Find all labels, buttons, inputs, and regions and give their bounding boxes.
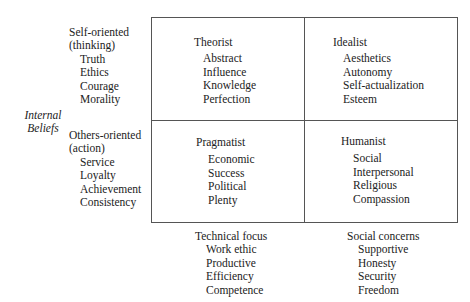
list-item: Productive [206, 257, 267, 270]
quadrant-items: Social Interpersonal Religious Compassio… [341, 152, 414, 206]
quadrant-title: Idealist [333, 36, 424, 49]
column-label-technical-focus: Technical focus Work ethic Productive Ef… [195, 230, 267, 297]
row-items: Service Loyalty Achievement Consistency [69, 156, 141, 210]
axis-label-line2: Beliefs [20, 122, 66, 135]
list-item: Self-actualization [343, 79, 424, 92]
list-item: Religious [353, 179, 414, 192]
list-item: Freedom [358, 284, 420, 297]
list-item: Influence [203, 66, 256, 79]
list-item: Compassion [353, 193, 414, 206]
column-label-social-concerns: Social concerns Supportive Honesty Secur… [347, 230, 420, 297]
quadrant-items: Abstract Influence Knowledge Perfection [194, 52, 256, 106]
list-item: Success [208, 167, 255, 180]
quadrant-title: Theorist [194, 36, 256, 49]
list-item: Abstract [203, 52, 256, 65]
grid-divider-horizontal [152, 120, 457, 121]
row-title-line2: (thinking) [69, 39, 129, 52]
quadrant-theorist: Theorist Abstract Influence Knowledge Pe… [194, 36, 256, 106]
list-item: Social [353, 152, 414, 165]
column-items: Work ethic Productive Efficiency Compete… [195, 243, 267, 297]
list-item: Political [208, 180, 255, 193]
column-title: Technical focus [195, 230, 267, 243]
list-item: Courage [80, 80, 129, 93]
column-title: Social concerns [347, 230, 420, 243]
row-title-line1: Others-oriented [69, 129, 141, 142]
quadrant-humanist: Humanist Social Interpersonal Religious … [341, 135, 414, 206]
list-item: Security [358, 270, 420, 283]
row-label-self-oriented: Self-oriented (thinking) Truth Ethics Co… [69, 26, 129, 106]
quadrant-items: Economic Success Political Plenty [196, 153, 255, 207]
axis-label-internal-beliefs: Internal Beliefs [20, 109, 66, 136]
list-item: Efficiency [206, 270, 267, 283]
list-item: Plenty [208, 194, 255, 207]
list-item: Perfection [203, 93, 256, 106]
list-item: Interpersonal [353, 166, 414, 179]
row-title-line2: (action) [69, 142, 141, 155]
quadrant-idealist: Idealist Aesthetics Autonomy Self-actual… [333, 36, 424, 106]
axis-label-line1: Internal [20, 109, 66, 122]
row-items: Truth Ethics Courage Morality [69, 53, 129, 107]
list-item: Esteem [343, 93, 424, 106]
list-item: Achievement [80, 183, 141, 196]
list-item: Knowledge [203, 79, 256, 92]
list-item: Morality [80, 93, 129, 106]
list-item: Supportive [358, 243, 420, 256]
row-title-line1: Self-oriented [69, 26, 129, 39]
quadrant-title: Pragmatist [196, 136, 255, 149]
list-item: Service [80, 156, 141, 169]
list-item: Truth [80, 53, 129, 66]
list-item: Consistency [80, 196, 141, 209]
list-item: Economic [208, 153, 255, 166]
quadrant-pragmatist: Pragmatist Economic Success Political Pl… [196, 136, 255, 207]
list-item: Honesty [358, 257, 420, 270]
list-item: Aesthetics [343, 52, 424, 65]
list-item: Autonomy [343, 66, 424, 79]
list-item: Work ethic [206, 243, 267, 256]
quadrant-title: Humanist [341, 135, 414, 148]
list-item: Loyalty [80, 169, 141, 182]
list-item: Ethics [80, 66, 129, 79]
row-label-others-oriented: Others-oriented (action) Service Loyalty… [69, 129, 141, 209]
quadrant-items: Aesthetics Autonomy Self-actualization E… [333, 52, 424, 106]
list-item: Competence [206, 284, 267, 297]
column-items: Supportive Honesty Security Freedom [347, 243, 420, 297]
